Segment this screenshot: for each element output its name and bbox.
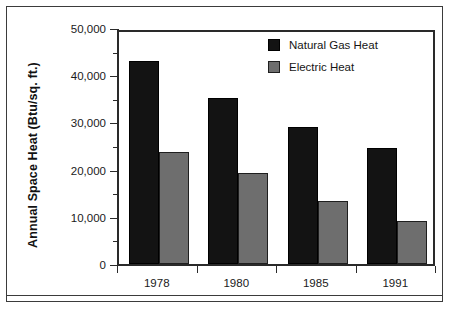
y-tick-label: 50,000 [44,24,106,34]
y-tick-label: 40,000 [44,71,106,81]
legend-label-natural-gas-heat: Natural Gas Heat [289,39,378,51]
bar-electric-heat-1991 [397,221,427,264]
legend-label-electric-heat: Electric Heat [289,61,354,73]
x-tick [435,266,436,273]
legend-swatch-natural-gas-heat [268,39,280,51]
x-tick [276,266,277,273]
bar-natural-gas-heat-1978 [129,61,159,264]
y-tick-label: 20,000 [44,166,106,176]
x-tick-label-1985: 1985 [281,277,351,289]
legend-item: Electric Heat [268,58,378,76]
legend-swatch-electric-heat [268,61,280,73]
bar-natural-gas-heat-1980 [208,98,238,264]
x-tick-label-1978: 1978 [122,277,192,289]
y-tick-label: 0 [44,260,106,270]
bar-electric-heat-1978 [159,152,189,264]
bar-chart: Annual Space Heat (Btu/sq. ft.) 010,0002… [0,0,451,313]
bar-electric-heat-1980 [238,173,268,264]
y-tick-label: 30,000 [44,118,106,128]
y-tick-label: 10,000 [44,213,106,223]
legend-item: Natural Gas Heat [268,36,378,54]
chart-page: Annual Space Heat (Btu/sq. ft.) 010,0002… [0,0,451,313]
x-tick [197,266,198,273]
chart-legend: Natural Gas Heat Electric Heat [268,36,378,80]
bar-natural-gas-heat-1991 [367,148,397,264]
x-tick-label-1980: 1980 [201,277,271,289]
bar-natural-gas-heat-1985 [288,127,318,264]
y-axis-title: Annual Space Heat (Btu/sq. ft.) [26,30,40,280]
bar-electric-heat-1985 [318,201,348,264]
x-tick-label-1991: 1991 [360,277,430,289]
x-tick [117,266,118,273]
x-tick [356,266,357,273]
